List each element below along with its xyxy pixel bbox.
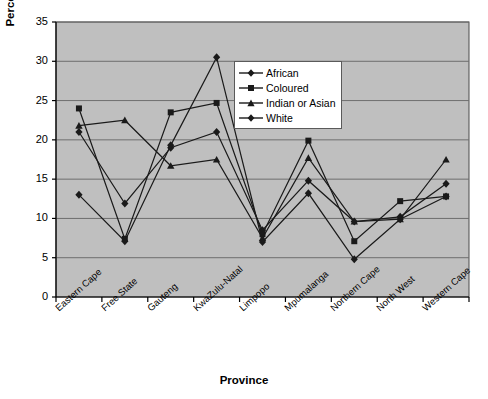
y-axis-tick-label: 5 xyxy=(22,251,48,263)
legend-label-indian-or-asian: Indian or Asian xyxy=(264,96,335,110)
white-marker-icon xyxy=(238,111,264,125)
legend-label-coloured: Coloured xyxy=(264,81,309,95)
y-axis-tick-label: 35 xyxy=(22,15,48,27)
y-axis-tick-label: 15 xyxy=(22,172,48,184)
legend-item-african[interactable]: African xyxy=(238,65,335,80)
y-axis-tick-label: 25 xyxy=(22,94,48,106)
legend-label-african: African xyxy=(264,66,299,80)
coloured-marker-icon xyxy=(238,81,264,95)
legend-item-coloured[interactable]: Coloured xyxy=(238,80,335,95)
african-marker-icon xyxy=(238,66,264,80)
y-axis-tick-label: 30 xyxy=(22,54,48,66)
legend-item-white[interactable]: White xyxy=(238,110,335,125)
x-axis-title: Province xyxy=(0,374,488,386)
y-axis-tick-label: 10 xyxy=(22,211,48,223)
plot-area xyxy=(0,0,488,399)
chart-legend: African Coloured Indian or Asian White xyxy=(234,61,342,129)
legend-item-indian-or-asian[interactable]: Indian or Asian xyxy=(238,95,335,110)
legend-label-white: White xyxy=(264,111,293,125)
y-axis-tick-label: 0 xyxy=(22,290,48,302)
indian-or-asian-marker-icon xyxy=(238,96,264,110)
y-axis-tick-label: 20 xyxy=(22,133,48,145)
chart-container: Percent employment African Coloured Indi… xyxy=(0,0,488,399)
